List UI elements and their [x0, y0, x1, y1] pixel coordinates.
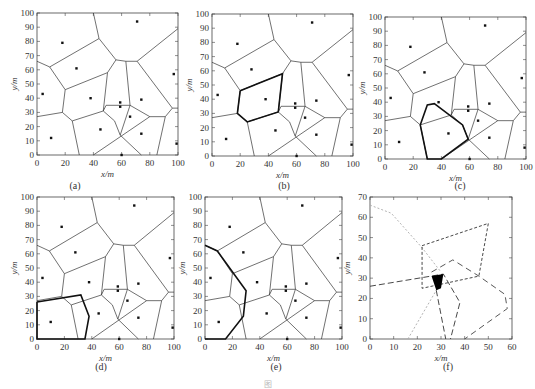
svg-text:0: 0	[363, 334, 368, 344]
svg-text:60: 60	[25, 65, 35, 75]
svg-text:50: 50	[200, 80, 210, 90]
svg-text:50: 50	[25, 79, 35, 89]
svg-text:40: 40	[193, 277, 203, 287]
figure-caption: 图	[0, 378, 535, 389]
svg-text:50: 50	[484, 342, 494, 352]
panel-label-f: (f)	[428, 361, 468, 372]
svg-text:40: 40	[200, 94, 210, 104]
svg-text:20: 20	[25, 306, 35, 316]
svg-text:70: 70	[200, 52, 210, 62]
panel-label-d: (d)	[81, 361, 121, 372]
svg-text:20: 20	[200, 123, 210, 133]
svg-text:90: 90	[25, 206, 35, 216]
svg-text:80: 80	[145, 158, 155, 168]
svg-text:60: 60	[200, 66, 210, 76]
svg-text:70: 70	[25, 51, 35, 61]
svg-text:50: 50	[25, 263, 35, 273]
svg-text:20: 20	[61, 158, 71, 168]
svg-text:y/m: y/m	[357, 81, 367, 95]
svg-text:60: 60	[117, 158, 127, 168]
svg-text:100: 100	[369, 12, 383, 22]
svg-text:100: 100	[21, 192, 35, 202]
svg-text:y/m: y/m	[9, 261, 19, 275]
svg-text:70: 70	[373, 55, 383, 65]
svg-text:10: 10	[200, 137, 210, 147]
plot-c: 0204060801000102030405060708090100x/my/m	[355, 11, 535, 193]
svg-text:40: 40	[373, 97, 383, 107]
svg-text:30: 30	[25, 107, 35, 117]
svg-text:50: 50	[358, 233, 368, 243]
svg-text:40: 40	[437, 162, 447, 172]
svg-text:20: 20	[228, 342, 238, 352]
svg-text:80: 80	[493, 162, 503, 172]
svg-text:40: 40	[87, 342, 97, 352]
svg-text:20: 20	[60, 342, 70, 352]
svg-text:10: 10	[389, 342, 399, 352]
svg-text:x/m: x/m	[100, 169, 114, 179]
svg-text:30: 30	[437, 342, 447, 352]
svg-text:60: 60	[193, 249, 203, 259]
svg-text:x/m: x/m	[275, 170, 289, 180]
svg-text:40: 40	[25, 277, 35, 287]
panel-label-e: (e)	[256, 361, 296, 372]
plot-a: 0204060801000102030405060708090100x/my/m	[7, 7, 188, 189]
svg-text:30: 30	[373, 111, 383, 121]
svg-text:60: 60	[283, 342, 293, 352]
svg-text:90: 90	[373, 26, 383, 36]
svg-text:y/m: y/m	[342, 261, 352, 275]
svg-text:70: 70	[25, 235, 35, 245]
svg-text:100: 100	[21, 8, 35, 18]
svg-text:100: 100	[196, 9, 210, 19]
svg-text:20: 20	[236, 159, 246, 169]
svg-text:10: 10	[25, 136, 35, 146]
svg-text:40: 40	[25, 93, 35, 103]
svg-text:70: 70	[193, 235, 203, 245]
svg-text:10: 10	[25, 320, 35, 330]
svg-text:0: 0	[378, 154, 383, 164]
svg-text:0: 0	[198, 334, 203, 344]
svg-text:60: 60	[115, 342, 125, 352]
svg-text:50: 50	[373, 83, 383, 93]
svg-text:10: 10	[193, 320, 203, 330]
svg-text:80: 80	[25, 220, 35, 230]
svg-text:20: 20	[25, 122, 35, 132]
svg-text:80: 80	[310, 342, 320, 352]
svg-text:80: 80	[200, 37, 210, 47]
svg-text:0: 0	[368, 342, 373, 352]
plot-e: 0204060801000102030405060708090100x/my/m	[175, 191, 352, 373]
svg-text:60: 60	[25, 249, 35, 259]
plot-d: 0204060801000102030405060708090100x/my/m	[7, 191, 184, 373]
svg-text:30: 30	[358, 273, 368, 283]
svg-text:20: 20	[193, 306, 203, 316]
svg-text:20: 20	[413, 342, 423, 352]
svg-text:0: 0	[30, 150, 35, 160]
plot-b: 0204060801000102030405060708090100x/my/m	[182, 8, 363, 190]
svg-text:40: 40	[255, 342, 264, 352]
svg-text:40: 40	[89, 158, 99, 168]
svg-text:20: 20	[373, 126, 383, 136]
svg-text:y/m: y/m	[184, 78, 194, 92]
svg-text:90: 90	[25, 22, 35, 32]
svg-text:90: 90	[200, 23, 210, 33]
svg-text:0: 0	[210, 159, 215, 169]
svg-text:100: 100	[189, 192, 203, 202]
svg-text:0: 0	[35, 342, 40, 352]
svg-text:0: 0	[383, 162, 388, 172]
svg-text:70: 70	[358, 192, 368, 202]
svg-text:0: 0	[35, 158, 40, 168]
svg-text:80: 80	[373, 40, 383, 50]
svg-text:100: 100	[519, 162, 533, 172]
svg-text:10: 10	[373, 140, 383, 150]
svg-text:60: 60	[292, 159, 302, 169]
svg-text:60: 60	[465, 162, 475, 172]
panel-label-b: (b)	[264, 180, 304, 191]
svg-text:40: 40	[460, 342, 470, 352]
svg-text:0: 0	[203, 342, 208, 352]
svg-text:0: 0	[205, 151, 210, 161]
svg-text:20: 20	[358, 293, 368, 303]
svg-text:30: 30	[193, 291, 203, 301]
svg-text:0: 0	[30, 334, 35, 344]
svg-text:y/m: y/m	[9, 77, 19, 91]
svg-text:y/m: y/m	[177, 261, 187, 275]
svg-text:80: 80	[193, 220, 203, 230]
